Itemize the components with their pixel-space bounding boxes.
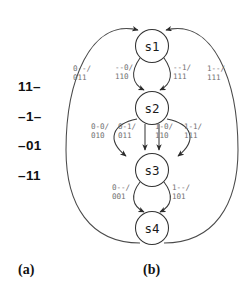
state-label-s1: s1 <box>144 39 159 54</box>
edge-label-s4-s1-left-output: 011 <box>73 73 87 82</box>
edge-s3-s4-right <box>160 182 170 212</box>
edge-label-s3-s4-left-output: 001 <box>112 192 126 201</box>
caption-a: (a) <box>18 262 34 278</box>
state-label-s4: s4 <box>144 221 159 236</box>
caption-b: (b) <box>143 262 160 278</box>
edge-label-s2-s3-inner-right-output: 110 <box>155 131 169 140</box>
edge-label-s2-s3-outer-right-output: 111 <box>184 131 198 140</box>
edge-s4-s1-right <box>164 29 238 243</box>
panel-b: s1 s2 s3 s4 --0/ 110 --1/ 111 0-0/ 010 <box>60 0 248 255</box>
edge-s1-s2-left <box>134 58 144 90</box>
edge-label-s1-s2-left-output: 110 <box>115 72 129 81</box>
state-label-s3: s3 <box>144 163 159 178</box>
edge-label-s2-s3-outer-left-output: 010 <box>91 131 105 140</box>
state-label-s2: s2 <box>144 101 159 116</box>
edge-label-s3-s4-right-output: 101 <box>172 192 186 201</box>
edge-label-s4-s1-right-output: 111 <box>207 73 221 82</box>
edge-s3-s4-left <box>134 182 144 212</box>
state-diagram: s1 s2 s3 s4 --0/ 110 --1/ 111 0-0/ 010 <box>60 0 248 255</box>
edge-s1-s2-right <box>160 58 170 90</box>
edge-label-s2-s3-inner-left-output: 011 <box>118 131 132 140</box>
figure-container: 11– –1– –01 –11 <box>0 0 248 296</box>
edge-label-s1-s2-right-output: 111 <box>173 72 187 81</box>
